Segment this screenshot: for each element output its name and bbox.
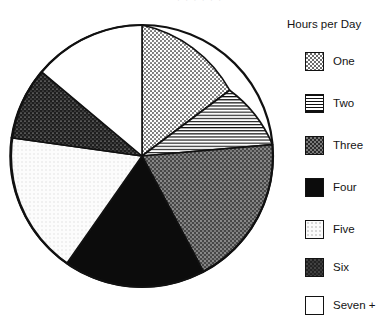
legend-item-seven-plus[interactable]: Seven + [305, 294, 376, 316]
legend-label-two: Two [333, 97, 354, 110]
legend-title: Hours per Day [287, 18, 361, 31]
legend-swatch-two-icon [305, 94, 324, 113]
legend: Hours per Day One Two Three Four Five Si… [285, 18, 391, 308]
legend-item-four[interactable]: Four [305, 176, 357, 198]
legend-swatch-five-icon [305, 220, 324, 239]
legend-label-one: One [333, 55, 355, 68]
legend-swatch-seven-plus-icon [305, 296, 324, 315]
pie-svg [0, 0, 285, 312]
legend-item-six[interactable]: Six [305, 256, 349, 278]
legend-swatch-one-icon [305, 52, 324, 71]
legend-label-seven-plus: Seven + [333, 299, 376, 312]
legend-label-six: Six [333, 261, 349, 274]
legend-label-four: Four [333, 181, 357, 194]
legend-label-five: Five [333, 223, 355, 236]
pie-chart-graphic [0, 0, 285, 312]
legend-swatch-three-icon [305, 136, 324, 155]
legend-item-three[interactable]: Three [305, 134, 363, 156]
legend-item-one[interactable]: One [305, 50, 355, 72]
legend-label-three: Three [333, 139, 363, 152]
legend-swatch-four-icon [305, 178, 324, 197]
legend-item-two[interactable]: Two [305, 92, 354, 114]
legend-item-five[interactable]: Five [305, 218, 355, 240]
legend-swatch-six-icon [305, 258, 324, 277]
